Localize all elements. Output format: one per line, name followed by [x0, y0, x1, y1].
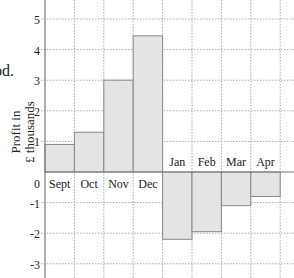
bar-nov [104, 80, 133, 172]
x-category-label: Feb [198, 155, 216, 169]
bar-sept [45, 144, 74, 172]
y-tick-label: -2 [30, 227, 40, 241]
y-tick-label: 3 [34, 74, 40, 88]
x-category-label: Mar [226, 155, 246, 169]
x-category-label: Dec [138, 177, 157, 191]
y-tick-label: 1 [34, 135, 40, 149]
y-tick-label: 4 [34, 44, 40, 58]
x-category-label: Apr [256, 155, 275, 169]
y-tick-label: -1 [30, 197, 40, 211]
bar-apr [251, 172, 280, 196]
x-category-label: Oct [80, 177, 98, 191]
x-category-label: Jan [169, 155, 185, 169]
bar-mar [221, 172, 250, 206]
y-tick-label: -3 [30, 258, 40, 272]
y-tick-label: 2 [34, 105, 40, 119]
y-tick-label: 5 [34, 13, 40, 27]
profit-bar-chart: 543210-1-2-3SeptOctNovDecJanFebMarApr [0, 0, 294, 278]
x-category-label: Nov [108, 177, 129, 191]
y-tick-label: 0 [34, 177, 40, 191]
bar-jan [163, 172, 192, 239]
x-category-label: Sept [49, 177, 71, 191]
bar-feb [192, 172, 221, 232]
bar-oct [74, 132, 103, 172]
bar-dec [133, 36, 162, 172]
